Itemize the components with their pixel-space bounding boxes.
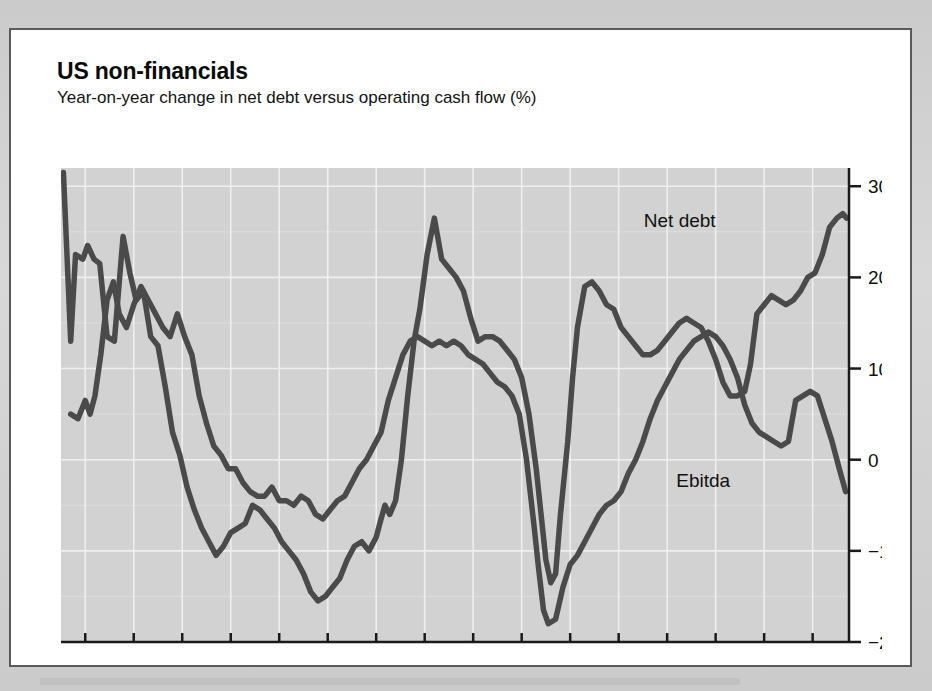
- svg-text:Ebitda: Ebitda: [676, 470, 730, 491]
- bleed-through-artifact: [40, 678, 740, 685]
- y-axis-tick-labels: 3020100−10−20: [868, 176, 882, 650]
- svg-text:10: 10: [868, 359, 882, 380]
- svg-text:−10: −10: [868, 541, 882, 562]
- chart-card: US non-financials Year-on-year change in…: [9, 28, 912, 667]
- svg-text:Net debt: Net debt: [644, 210, 717, 231]
- svg-text:20: 20: [868, 267, 882, 288]
- chart-subtitle: Year-on-year change in net debt versus o…: [57, 88, 536, 108]
- chart-plot-area: 3020100−10−20 20000204060810121415 Net d…: [52, 140, 882, 650]
- scanned-page: US non-financials Year-on-year change in…: [0, 0, 932, 691]
- y-axis-ticks: [849, 186, 861, 642]
- svg-text:30: 30: [868, 176, 882, 197]
- svg-text:0: 0: [868, 450, 879, 471]
- line-chart: 3020100−10−20 20000204060810121415 Net d…: [52, 140, 882, 650]
- svg-text:−20: −20: [868, 632, 882, 650]
- plot-background: [61, 168, 849, 642]
- page-title: US non-financials: [57, 58, 248, 85]
